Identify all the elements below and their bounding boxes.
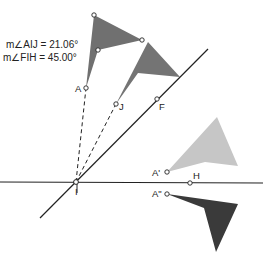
label-f: F bbox=[159, 101, 165, 112]
ray-ij-dashed bbox=[76, 104, 116, 182]
flag-light[interactable] bbox=[167, 117, 238, 172]
label-j: J bbox=[119, 101, 124, 112]
label-h: H bbox=[193, 170, 200, 181]
label-a: A bbox=[75, 83, 82, 94]
flag-reflected[interactable] bbox=[167, 194, 238, 252]
line-ih[interactable] bbox=[0, 182, 263, 183]
line-if[interactable] bbox=[40, 49, 208, 218]
flag-rotated[interactable] bbox=[116, 42, 180, 104]
label-a-prime: A' bbox=[152, 167, 160, 178]
point-i[interactable] bbox=[74, 180, 79, 185]
geometry-canvas: A J F I H A' A" bbox=[0, 0, 269, 259]
point-a-double-prime[interactable] bbox=[165, 192, 169, 196]
point-flag-inner[interactable] bbox=[96, 48, 100, 52]
label-a-double-prime: A" bbox=[152, 188, 162, 199]
ray-ia-dashed bbox=[76, 88, 86, 182]
point-flag-right[interactable] bbox=[140, 38, 144, 42]
point-h[interactable] bbox=[188, 181, 192, 185]
point-a-prime[interactable] bbox=[165, 170, 169, 174]
point-a[interactable] bbox=[84, 86, 88, 90]
point-flag-top[interactable] bbox=[92, 13, 96, 17]
point-j[interactable] bbox=[114, 102, 118, 106]
label-i: I bbox=[75, 186, 78, 197]
